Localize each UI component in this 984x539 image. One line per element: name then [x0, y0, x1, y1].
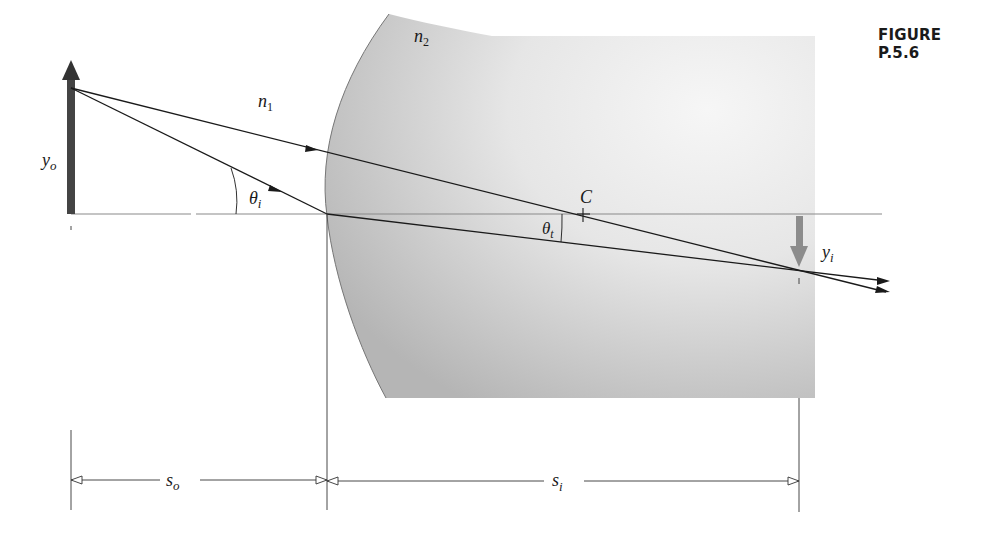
- label-center-c: C: [580, 187, 593, 207]
- dimension-so: [71, 476, 327, 484]
- dimension-si: [327, 477, 799, 485]
- label-si: si: [552, 470, 563, 494]
- label-n1: n1: [258, 91, 273, 114]
- label-yi: yi: [820, 242, 834, 265]
- glass-medium: [325, 14, 815, 398]
- theta-i-arc: [231, 168, 237, 214]
- label-so: so: [166, 470, 180, 493]
- label-theta-i: θi: [249, 188, 262, 211]
- arrowhead-2: [875, 286, 890, 293]
- label-yo: yo: [40, 150, 57, 173]
- object-arrow: [62, 60, 80, 214]
- arrowhead-1: [877, 277, 890, 285]
- refraction-diagram: n1 n2 yo θi θt C yi so si: [0, 0, 984, 539]
